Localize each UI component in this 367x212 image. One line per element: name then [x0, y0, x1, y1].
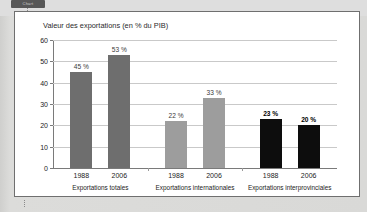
plot-area: 0102030405060 45 %53 %22 %33 %23 %20 %: [53, 40, 337, 168]
x-axis-year-label: 2006: [206, 172, 222, 179]
gridline-20: 20: [53, 125, 337, 126]
x-axis-year-label: 2006: [112, 172, 128, 179]
gridline-30: 30: [53, 104, 337, 105]
x-axis-group-label: Exportations internationales: [156, 184, 235, 191]
y-tick-30: [50, 104, 53, 105]
y-tick-0: [50, 168, 53, 169]
bar-value-label: 22 %: [168, 112, 183, 119]
y-tick-label-20: 20: [40, 122, 48, 129]
document-tab[interactable]: Chart: [11, 0, 45, 8]
x-axis-year-label: 1988: [74, 172, 90, 179]
x-axis-group-label: Exportations totales: [72, 184, 128, 191]
bar: 20 %: [298, 125, 320, 168]
y-tick-label-30: 30: [40, 101, 48, 108]
bar-value-label: 20 %: [301, 116, 316, 123]
group-separator: [242, 168, 243, 171]
group-separator: [148, 168, 149, 171]
chart-panel: Valeur des exportations (en % du PIB) 01…: [14, 11, 360, 197]
y-tick-label-50: 50: [40, 58, 48, 65]
y-tick-label-10: 10: [40, 143, 48, 150]
y-tick-label-40: 40: [40, 79, 48, 86]
gridline-40: 40: [53, 83, 337, 84]
x-axis-labels: 19882006Exportations totales19882006Expo…: [53, 172, 337, 200]
bar: 45 %: [70, 72, 92, 168]
bar: 33 %: [203, 98, 225, 168]
document-tab-label: Chart: [11, 0, 45, 8]
bar-value-label: 23 %: [263, 110, 278, 117]
bar-value-label: 53 %: [112, 46, 127, 53]
bar: 23 %: [260, 119, 282, 168]
tab-connector-line-bottom: [24, 200, 26, 207]
chart-title: Valeur des exportations (en % du PIB): [43, 21, 168, 30]
x-axis-year-label: 2006: [301, 172, 317, 179]
gridline-0: 0: [53, 168, 337, 169]
bar: 53 %: [108, 55, 130, 168]
x-axis-year-label: 1988: [168, 172, 184, 179]
y-tick-40: [50, 83, 53, 84]
y-tick-20: [50, 125, 53, 126]
bar-value-label: 45 %: [74, 63, 89, 70]
y-tick-10: [50, 147, 53, 148]
y-tick-label-0: 0: [44, 165, 48, 172]
x-axis-year-label: 1988: [263, 172, 279, 179]
bar: 22 %: [165, 121, 187, 168]
y-tick-50: [50, 61, 53, 62]
y-tick-60: [50, 40, 53, 41]
gridline-10: 10: [53, 147, 337, 148]
bar-value-label: 33 %: [206, 89, 221, 96]
x-axis-group-label: Exportations interprovinciales: [248, 184, 331, 191]
y-tick-label-60: 60: [40, 37, 48, 44]
gridline-60: 60: [53, 40, 337, 41]
gridline-50: 50: [53, 61, 337, 62]
